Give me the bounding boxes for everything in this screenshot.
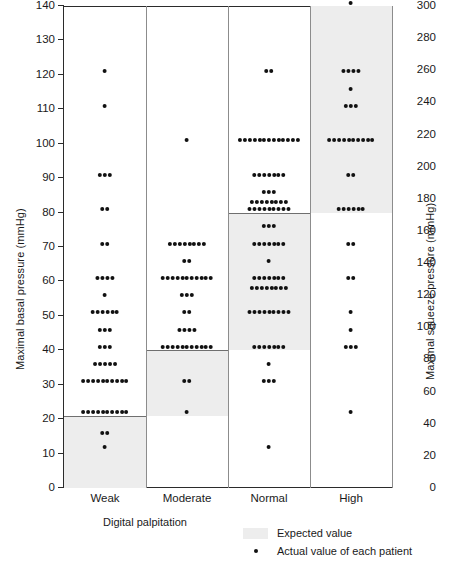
data-point-dot (185, 276, 189, 280)
data-point-dot (103, 345, 107, 349)
data-point-dot (187, 242, 191, 246)
expected-value-band (146, 350, 228, 415)
data-point-dot (277, 207, 281, 211)
data-point-dot (272, 345, 276, 349)
data-point-dot (108, 362, 112, 366)
legend-dot-icon (243, 546, 268, 557)
x-category-normal: Normal (228, 492, 310, 504)
data-point-dot (347, 276, 351, 280)
data-point-dot (113, 362, 117, 366)
data-point-dot (115, 379, 119, 383)
chart-figure: Maximal basal pressure (mmHg) Maximal sq… (0, 0, 464, 567)
data-point-dot (267, 310, 271, 314)
data-point-dot (108, 345, 112, 349)
data-point-dot (262, 242, 266, 246)
data-point-dot (110, 276, 114, 280)
x-category-moderate: Moderate (146, 492, 228, 504)
data-point-dot (356, 69, 360, 73)
data-point-dot (168, 242, 172, 246)
data-point-dot (183, 259, 187, 263)
data-point-dot (361, 138, 365, 142)
data-point-dot (366, 138, 370, 142)
data-point-dot (267, 345, 271, 349)
data-point-dot (110, 410, 114, 414)
expected-value-band (310, 6, 392, 213)
y-tick-label: 90 (42, 170, 55, 185)
data-point-dot (262, 173, 266, 177)
data-point-dot (105, 276, 109, 280)
data-point-dot (192, 328, 196, 332)
y-tick-label: 40 (410, 416, 436, 431)
data-point-dot (103, 69, 107, 73)
data-point-dot (265, 200, 269, 204)
data-point-dot (103, 104, 107, 108)
data-point-dot (284, 286, 288, 290)
legend-label: Expected value (277, 527, 352, 539)
data-point-dot (286, 207, 290, 211)
data-point-dot (349, 328, 353, 332)
data-point-dot (98, 345, 102, 349)
data-point-dot (103, 362, 107, 366)
data-point-dot (248, 207, 252, 211)
data-point-dot (171, 345, 175, 349)
data-point-dot (347, 242, 351, 246)
data-point-dot (344, 345, 348, 349)
data-point-dot (103, 328, 107, 332)
data-point-dot (267, 207, 271, 211)
y-tick-label: 30 (42, 377, 55, 392)
data-point-dot (105, 410, 109, 414)
data-point-dot (103, 173, 107, 177)
x-category-high: High (310, 492, 392, 504)
data-point-dot (260, 200, 264, 204)
data-point-dot (337, 138, 341, 142)
data-point-dot (185, 345, 189, 349)
data-point-dot (262, 345, 266, 349)
y-tick-label: 300 (410, 0, 436, 13)
y-tick-label: 60 (42, 273, 55, 288)
data-point-dot (267, 242, 271, 246)
data-point-dot (257, 310, 261, 314)
column-separator (228, 6, 229, 488)
data-point-dot (166, 345, 170, 349)
y-tick-label: 220 (410, 127, 436, 142)
data-point-dot (253, 138, 257, 142)
data-point-dot (81, 379, 85, 383)
data-point-dot (91, 410, 95, 414)
data-point-dot (105, 379, 109, 383)
data-point-dot (180, 345, 184, 349)
data-point-dot (351, 276, 355, 280)
data-point-dot (267, 445, 271, 449)
data-point-dot (284, 200, 288, 204)
data-point-dot (277, 173, 281, 177)
data-point-dot (185, 138, 189, 142)
data-point-dot (101, 207, 105, 211)
expected-band-edge (146, 350, 228, 351)
expected-band-edge (64, 416, 146, 417)
y-tick-label: 0 (49, 480, 55, 495)
y-tick-label: 0 (410, 480, 436, 495)
y-tick-label: 140 (36, 0, 55, 13)
data-point-dot (272, 276, 276, 280)
data-point-dot (351, 69, 355, 73)
expected-band-edge (228, 213, 310, 214)
data-point-dot (178, 328, 182, 332)
data-point-dot (260, 286, 264, 290)
y-tick-label: 50 (42, 308, 55, 323)
data-point-dot (98, 328, 102, 332)
data-point-dot (272, 207, 276, 211)
data-point-dot (120, 410, 124, 414)
y-tick-label: 20 (42, 411, 55, 426)
data-point-dot (272, 224, 276, 228)
plot-area: 0102030405060708090100110120130140 02040… (64, 6, 392, 488)
legend-label: Actual value of each patient (277, 545, 412, 557)
data-point-dot (101, 310, 105, 314)
y-tick-label: 280 (410, 30, 436, 45)
data-point-dot (272, 173, 276, 177)
data-point-dot (120, 379, 124, 383)
data-point-dot (197, 242, 201, 246)
y-tick-label: 110 (37, 101, 55, 116)
data-point-dot (81, 410, 85, 414)
category-column-high (310, 6, 392, 488)
data-point-dot (98, 362, 102, 366)
data-point-dot (296, 138, 300, 142)
